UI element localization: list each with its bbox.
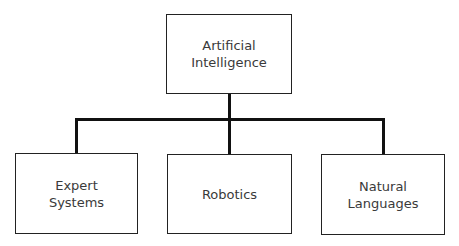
node-label: Systems — [49, 194, 104, 211]
connector-expert-systems — [75, 118, 78, 154]
node-label: Natural — [348, 178, 419, 195]
node-expert-systems: Expert Systems — [15, 153, 138, 234]
node-label: Artificial — [191, 37, 267, 54]
node-label: Languages — [348, 195, 419, 212]
node-natural-languages: Natural Languages — [321, 154, 445, 235]
root-connector-vertical — [228, 94, 231, 154]
node-robotics: Robotics — [167, 154, 292, 234]
horizontal-bus-connector — [75, 118, 385, 121]
node-artificial-intelligence: Artificial Intelligence — [166, 14, 292, 94]
node-label: Expert — [49, 177, 104, 194]
node-label: Robotics — [202, 186, 257, 203]
node-label: Intelligence — [191, 54, 267, 71]
connector-natural-languages — [382, 118, 385, 154]
